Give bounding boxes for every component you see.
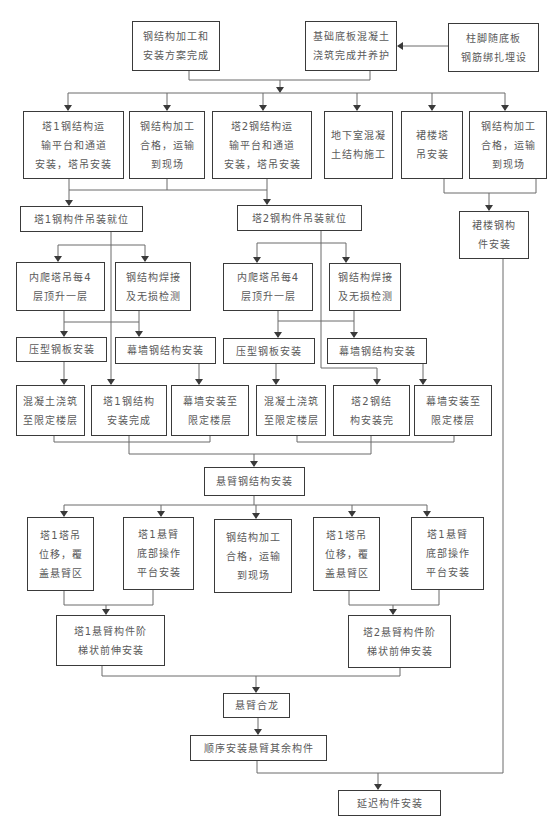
node-text: 塔1钢结构运 [42,117,104,136]
node-text: 安装，塔吊安装 [35,155,112,174]
node-t1-deck: 压型钢板安装 [16,337,107,362]
node-text: 构安装完 [350,411,394,430]
node-text: 盖悬臂区 [39,564,83,583]
connector [54,436,210,454]
node-t1-crane-shift-b: 塔1塔吊 位移，覆 盖悬臂区 [313,517,380,591]
node-text: 合格，运输 [481,136,536,155]
node-text: 及无损检测 [338,287,393,306]
node-text: 至限定楼层 [23,411,78,430]
node-text: 平台安装 [426,563,470,582]
node-text: 塔2钢结 [351,392,391,411]
node-text: 钢结构加工 [140,117,195,136]
node-cantilever: 悬臂钢结构安装 [204,467,305,496]
connector [189,71,370,80]
node-text: 塔1悬臂 [427,525,467,544]
node-steel-fab-2: 钢结构加工 合格，运输 到现场 [469,111,547,179]
node-delayed: 延迟构件安装 [338,790,441,816]
node-remaining: 顺序安装悬臂其余构件 [190,735,327,761]
node-text: 到现场 [237,566,270,585]
node-steel-fab-3: 钢结构加工 合格，运输 到现场 [214,519,292,593]
node-text: 底部操作 [426,544,470,563]
node-closure: 悬臂合龙 [223,693,290,718]
node-text: 层顶升一层 [33,287,88,306]
node-text: 幕墙安装至 [183,392,238,411]
node-text: 至限定楼层 [264,411,319,430]
node-foundation: 基础底板混凝土 浇筑完成并养护 [305,21,397,71]
node-t2-deck: 压型钢板安装 [223,338,315,364]
node-text: 塔2钢构件吊装就位 [252,209,347,228]
node-basement: 地下室混凝 土结构施工 [324,111,393,179]
node-text: 塔1钢结构 [103,392,154,411]
node-text: 悬臂钢结构安装 [216,472,293,491]
node-text: 钢结构焊接 [338,268,393,287]
node-text: 输平台和通道 [41,136,107,155]
node-t1-cant-platform: 塔1悬臂 底部操作 平台安装 [123,517,194,590]
node-t1-stepped: 塔1悬臂构件阶 梯状前伸安装 [56,615,165,666]
node-text: 裙楼钢构 [472,216,516,235]
node-t2-hoist: 塔2钢构件吊装就位 [237,205,362,231]
node-text: 幕墙钢结构安装 [339,342,416,361]
connector [64,590,153,605]
node-text: 安装完成 [107,411,151,430]
node-text: 钢结构加工 [226,528,281,547]
connector [349,590,439,605]
node-text: 限定楼层 [431,411,475,430]
node-t1-curtain-floor: 幕墙安装至 限定楼层 [171,385,249,436]
node-text: 混凝土浇筑 [23,392,78,411]
node-text: 内爬塔吊每4 [29,268,91,287]
node-t1-weld: 钢结构焊接 及无损检测 [115,262,191,311]
connector-podium-to-final [257,259,503,773]
node-text: 输平台和通道 [229,136,295,155]
node-t1-climb: 内爬塔吊每4 层顶升一层 [16,262,105,311]
connector [69,179,267,190]
connector [278,311,354,321]
node-text: 盖悬臂区 [325,564,369,583]
node-text: 内爬塔吊每4 [237,268,299,287]
node-text: 塔2悬臂构件阶 [363,623,436,642]
node-steel-fab-1: 钢结构加工 合格，运输 到现场 [129,111,205,179]
node-text: 幕墙钢结构安装 [127,341,204,360]
connector [64,496,427,505]
node-t2-curtain-floor: 幕墙安装至 限定楼层 [414,385,492,436]
node-text: 塔2钢结构运 [231,117,293,136]
node-text: 平台安装 [137,563,181,582]
node-podium-crane: 裙楼塔 吊安装 [401,111,463,179]
node-text: 合格，运输 [226,547,281,566]
node-t2-platform: 塔2钢结构运 输平台和通道 安装，塔吊安装 [212,111,312,179]
node-text: 裙楼塔 [416,126,449,145]
node-t1-done: 塔1钢结构 安装完成 [91,385,167,436]
node-text: 悬臂合龙 [235,696,279,715]
node-t2-climb: 内爬塔吊每4 层顶升一层 [223,263,313,311]
node-text: 土结构施工 [331,145,386,164]
node-text: 塔1塔吊 [40,526,80,545]
node-text: 位移，覆 [39,545,83,564]
node-text: 件安装 [478,235,511,254]
node-t1-crane-shift: 塔1塔吊 位移，覆 盖悬臂区 [27,517,94,591]
node-text: 塔1钢构件吊装就位 [34,210,129,229]
node-text: 塔1塔吊 [326,526,366,545]
node-t2-stepped: 塔2悬臂构件阶 梯状前伸安装 [348,615,451,668]
node-text: 吊安装 [416,145,449,164]
connector [64,311,139,322]
node-text: 梯状前伸安装 [367,642,433,661]
node-text: 幕墙安装至 [426,392,481,411]
node-text: 地下室混凝 [331,126,386,145]
node-t1-concrete: 混凝土浇筑 至限定楼层 [16,385,85,436]
node-t2-weld: 钢结构焊接 及无损检测 [329,263,401,311]
node-t1-platform: 塔1钢结构运 输平台和通道 安装，塔吊安装 [23,111,124,179]
node-text: 位移，覆 [325,545,369,564]
node-text: 到现场 [492,155,525,174]
connector [297,436,454,454]
node-text: 钢筋绑扎埋设 [461,48,527,67]
node-t1-cant-platform-b: 塔1悬臂 底部操作 平台安装 [411,517,484,590]
node-text: 安装方案完成 [143,46,209,65]
node-text: 基础底板混凝土 [313,27,390,46]
node-text: 合格，运输 [140,136,195,155]
node-text: 压型钢板安装 [236,342,302,361]
node-t2-done: 塔2钢结 构安装完 [333,385,410,436]
node-text: 限定楼层 [188,411,232,430]
node-text: 塔1悬臂 [138,525,178,544]
node-text: 到现场 [151,155,184,174]
node-text: 浇筑完成并养护 [313,46,390,65]
node-text: 及无损检测 [126,287,181,306]
